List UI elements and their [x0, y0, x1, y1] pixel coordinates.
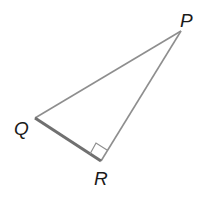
right-angle-marker: [90, 143, 107, 154]
vertex-label-p: P: [180, 10, 193, 31]
vertex-label-q: Q: [14, 118, 29, 139]
side-pr: [101, 31, 181, 161]
triangle-diagram: P Q R: [0, 0, 216, 197]
vertex-label-r: R: [94, 168, 108, 189]
side-qr: [35, 118, 101, 161]
side-pq: [35, 31, 181, 118]
